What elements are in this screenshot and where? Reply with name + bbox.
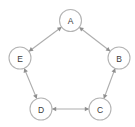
edge-a-b[interactable] xyxy=(79,27,110,51)
nodes-layer: ABCDE xyxy=(9,10,130,121)
node-label-b: B xyxy=(116,54,122,64)
arrowhead-c-to-d xyxy=(52,107,56,112)
node-label-a: A xyxy=(68,16,74,26)
node-label-e: E xyxy=(17,54,23,64)
node-e[interactable]: E xyxy=(9,47,31,69)
node-c[interactable]: C xyxy=(89,98,111,120)
arrowhead-d-to-c xyxy=(85,107,89,112)
node-label-d: D xyxy=(38,105,44,115)
node-b[interactable]: B xyxy=(108,47,130,69)
graph-diagram: ABCDE xyxy=(0,0,135,127)
node-a[interactable]: A xyxy=(60,10,82,32)
edge-d-e[interactable] xyxy=(24,68,37,99)
edge-e-a[interactable] xyxy=(29,27,62,51)
graph-canvas: ABCDE xyxy=(0,0,135,127)
node-d[interactable]: D xyxy=(30,98,52,120)
arrowhead-a-to-e xyxy=(29,47,34,51)
edges-layer xyxy=(24,27,115,109)
arrowhead-e-to-a xyxy=(57,27,62,31)
node-label-c: C xyxy=(97,105,103,115)
edge-b-c[interactable] xyxy=(104,68,115,98)
